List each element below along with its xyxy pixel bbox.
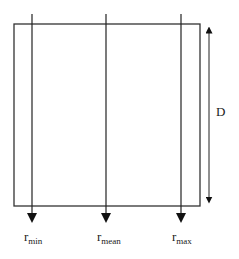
label-r-mean-sub: mean (101, 236, 121, 246)
label-r-max: rmax (172, 229, 192, 246)
label-r-max-sub: max (176, 236, 192, 246)
label-r-min: rmin (24, 229, 42, 246)
dimension-label-text: D (216, 104, 225, 119)
label-r-mean: rmean (97, 229, 121, 246)
diagram-canvas (0, 0, 239, 259)
label-r-min-sub: min (28, 236, 42, 246)
dimension-label: D (216, 104, 225, 120)
sample-box (14, 24, 200, 206)
